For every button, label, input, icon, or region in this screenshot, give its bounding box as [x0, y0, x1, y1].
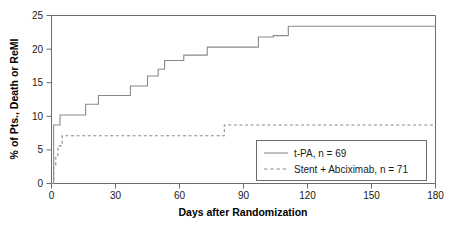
y-tick-label-10: 10 — [32, 111, 44, 122]
x-axis-tick-labels: 0 30 60 90 120 150 180 — [49, 190, 445, 201]
y-axis-ticks — [47, 16, 52, 184]
y-tick-label-15: 15 — [32, 77, 44, 88]
x-tick-label-120: 120 — [299, 190, 316, 201]
y-tick-label-5: 5 — [37, 144, 43, 155]
y-tick-label-20: 20 — [32, 44, 44, 55]
chart-legend[interactable]: t-PA, n = 69 Stent + Abciximab, n = 71 — [257, 141, 427, 181]
y-tick-label-25: 25 — [32, 10, 44, 21]
y-axis-title: % of Pts., Death or ReMI — [8, 39, 20, 160]
x-tick-label-0: 0 — [49, 190, 55, 201]
y-axis-tick-labels: 0 5 10 15 20 25 — [32, 10, 44, 189]
x-tick-label-180: 180 — [427, 190, 444, 201]
x-tick-label-90: 90 — [238, 190, 250, 201]
chart-canvas: 0 5 10 15 20 25 0 30 60 90 120 150 180 — [0, 0, 453, 228]
y-tick-label-0: 0 — [37, 178, 43, 189]
legend-label-t-pa: t-PA, n = 69 — [294, 148, 347, 159]
x-tick-label-30: 30 — [110, 190, 122, 201]
x-tick-label-60: 60 — [174, 190, 186, 201]
kaplan-meier-figure: 0 5 10 15 20 25 0 30 60 90 120 150 180 — [0, 0, 453, 228]
legend-label-stent-abciximab: Stent + Abciximab, n = 71 — [294, 164, 408, 175]
x-tick-label-150: 150 — [363, 190, 380, 201]
x-axis-title: Days after Randomization — [179, 206, 308, 218]
x-axis-ticks — [52, 184, 436, 189]
